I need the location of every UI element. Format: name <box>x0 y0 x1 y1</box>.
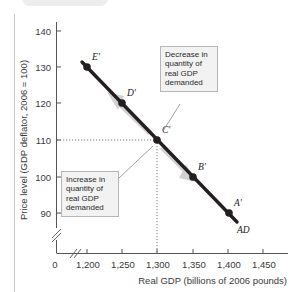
callout-increase-line-4: demanded <box>66 203 114 212</box>
y-tick-label-120: 120 <box>35 98 51 109</box>
callout-increase-line-1: Increase in <box>66 175 114 184</box>
callout-increase-line-3: real GDP <box>66 194 114 203</box>
figure-container: 140 130 120 110 100 90 0 1,200 1,250 1,3… <box>0 0 295 292</box>
data-point-a[interactable] <box>225 209 233 217</box>
data-point-label-b: B' <box>198 162 207 172</box>
x-tick-label-1300: 1,300 <box>146 259 170 270</box>
data-point-d[interactable] <box>118 99 126 107</box>
ad-curve-label: AD <box>236 225 250 235</box>
callout-decrease-in-quantity: Decrease in quantity of real GDP demande… <box>160 46 218 92</box>
data-point-b[interactable] <box>189 173 197 181</box>
y-tick-label-90: 90 <box>40 208 51 219</box>
y-tick-label-110: 110 <box>36 135 51 146</box>
x-tick-label-1250: 1,250 <box>111 259 135 270</box>
x-tick-label-0: 0 <box>52 259 57 270</box>
callout-decrease-line-4: demanded <box>165 78 213 87</box>
leader-line-decrease <box>163 104 180 131</box>
chart-plot: 140 130 120 110 100 90 0 1,200 1,250 1,3… <box>0 0 295 292</box>
x-axis-ticks <box>87 249 263 254</box>
data-point-e[interactable] <box>83 63 91 71</box>
x-axis <box>57 249 289 258</box>
data-point-label-d: D' <box>126 88 137 98</box>
callout-increase-line-2: quantity of <box>66 184 114 193</box>
x-tick-label-1200: 1,200 <box>76 259 100 270</box>
data-point-c[interactable] <box>153 136 161 144</box>
leader-line-increase <box>119 146 153 178</box>
data-point-label-a: A' <box>233 198 243 208</box>
x-tick-label-1450: 1,450 <box>252 259 276 270</box>
callout-decrease-line-1: Decrease in <box>165 50 213 59</box>
y-tick-label-130: 130 <box>35 62 51 73</box>
x-axis-title: Real GDP (billions of 2006 pounds) <box>138 275 287 286</box>
y-axis-title: Price level (GDP deflator, 2006 = 100) <box>18 60 29 220</box>
y-tick-label-100: 100 <box>35 172 51 183</box>
callout-decrease-line-3: real GDP <box>165 69 213 78</box>
x-tick-label-1350: 1,350 <box>182 259 206 270</box>
y-axis <box>52 22 61 253</box>
data-point-label-e: E' <box>91 52 101 62</box>
x-tick-label-1400: 1,400 <box>217 259 241 270</box>
callout-increase-in-quantity: Increase in quantity of real GDP demande… <box>61 171 119 217</box>
y-tick-label-140: 140 <box>35 26 51 37</box>
callout-decrease-line-2: quantity of <box>165 59 213 68</box>
